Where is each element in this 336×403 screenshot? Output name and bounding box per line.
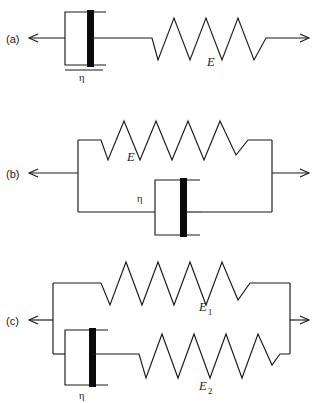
panel-c-spring1-branch [53, 262, 290, 305]
panel-a-left-arrow [29, 34, 65, 42]
panel-c-spring1-label: E [198, 300, 207, 314]
panel-c-spring2-label: E [198, 379, 207, 393]
panel-b-right-arrow [272, 169, 309, 177]
panel-c-spring2-subscript: 2 [208, 386, 212, 396]
panel-b-kelvin-voigt-model: (b) E η [6, 121, 309, 237]
panel-b-left-arrow [29, 169, 78, 177]
panel-b-label: (b) [6, 168, 19, 180]
panel-a-label: (a) [6, 33, 19, 45]
panel-c-dashpot [65, 328, 128, 387]
figure-root: (a) η E [0, 0, 336, 403]
panel-c-spring2 [128, 334, 290, 378]
panel-a-spring-label: E [206, 55, 215, 69]
panel-b-eta-label: η [137, 193, 143, 204]
panel-a-maxwell-model: (a) η E [6, 10, 309, 83]
panel-a-eta-label: η [79, 72, 85, 83]
panel-c-standard-linear-solid-model: (c) E 1 η [6, 262, 309, 401]
panel-c-eta-label: η [79, 390, 85, 401]
panel-a-spring [133, 18, 308, 60]
panel-c-spring1-subscript: 1 [208, 307, 212, 317]
panel-b-dashpot [155, 178, 202, 237]
panel-b-spring-branch [78, 121, 272, 160]
panel-b-spring-label: E [126, 150, 135, 164]
panel-c-piston-bar [89, 328, 96, 387]
panel-c-label: (c) [6, 315, 19, 327]
panel-c-left-arrow [29, 316, 53, 324]
viscoelastic-models-figure: (a) η E [0, 0, 336, 403]
panel-c-right-arrow [290, 316, 309, 324]
panel-a-dashpot [65, 10, 133, 70]
panel-b-piston-bar [180, 178, 187, 237]
